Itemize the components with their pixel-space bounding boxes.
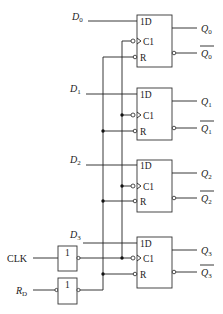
q2n-label: Q2 — [201, 193, 212, 206]
svg-text:1D: 1D — [140, 239, 152, 249]
svg-text:1D: 1D — [140, 161, 152, 171]
d2-label: D2 — [69, 154, 81, 167]
svg-text:R: R — [140, 197, 147, 207]
svg-text:R: R — [140, 127, 147, 137]
clk-label: CLK — [7, 253, 28, 264]
flipflop-3: 1D C1 R — [79, 237, 197, 288]
svg-text:C1: C1 — [143, 182, 154, 192]
d1-label: D1 — [69, 83, 81, 96]
q0-label: Q0 — [201, 23, 212, 36]
svg-text:R: R — [140, 270, 147, 280]
q2-label: Q2 — [201, 168, 212, 181]
d0-label: D0 — [71, 11, 83, 24]
q3n-label: Q3 — [201, 267, 212, 280]
clk-inverter-gate: 1 — [33, 246, 80, 271]
reset-inverter-gate: 1 — [33, 278, 103, 304]
svg-text:C1: C1 — [143, 254, 154, 264]
svg-text:C1: C1 — [143, 37, 154, 47]
svg-text:R: R — [140, 53, 147, 63]
svg-text:1: 1 — [65, 280, 70, 290]
q1-label: Q1 — [201, 96, 212, 109]
register-circuit: 1D C1 R 1D C1 R 1D C1 R — [0, 0, 223, 314]
svg-text:1D: 1D — [140, 90, 152, 100]
svg-text:1: 1 — [65, 248, 70, 258]
q3-label: Q3 — [201, 245, 212, 258]
svg-text:1D: 1D — [140, 17, 152, 27]
q0n-label: Q0 — [201, 48, 212, 61]
svg-text:C1: C1 — [143, 111, 154, 121]
rd-label: RD — [15, 285, 27, 298]
q1n-label: Q1 — [201, 123, 212, 136]
flipflop-0: 1D C1 R — [88, 15, 197, 67]
d3-label: D3 — [69, 229, 81, 242]
